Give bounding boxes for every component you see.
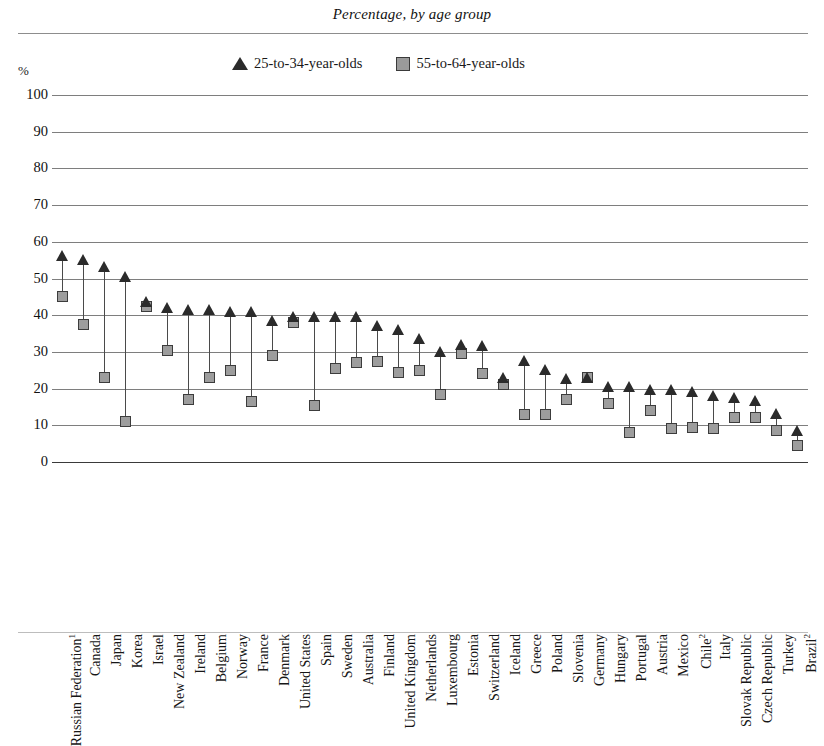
y-axis-unit-label: % (18, 63, 29, 79)
legend-item-1: 25-to-34-year-olds (232, 55, 362, 72)
data-point-triangle (791, 425, 803, 436)
connector-stem (251, 312, 252, 402)
data-point-triangle (770, 408, 782, 419)
data-point-triangle (539, 364, 551, 375)
data-point-square (267, 350, 278, 361)
x-axis-label-33: Slovak Republic (740, 634, 754, 727)
footnote-marker: 1 (67, 634, 77, 639)
data-point-triangle (665, 384, 677, 395)
x-axis-labels: Russian Federation1CanadaJapanKoreaIsrae… (52, 466, 808, 640)
connector-stem (188, 310, 189, 400)
data-point-square (687, 422, 698, 433)
connector-stem (356, 317, 357, 363)
x-axis-label-15: Australia (362, 634, 376, 685)
legend-label: 25-to-34-year-olds (254, 55, 362, 72)
data-point-square (771, 425, 782, 436)
data-point-triangle (350, 311, 362, 322)
data-point-square (372, 356, 383, 367)
x-axis-label-31: Chile2 (698, 634, 714, 669)
x-axis-label-32: Italy (719, 634, 733, 660)
data-point-triangle (56, 250, 68, 261)
y-axis-tick-80: 80 (8, 159, 48, 176)
data-point-triangle (560, 373, 572, 384)
x-axis-label-36: Brazil2 (803, 634, 819, 673)
data-point-square (729, 412, 740, 423)
data-point-triangle (224, 306, 236, 317)
data-point-square (435, 389, 446, 400)
connector-stem (629, 387, 630, 433)
data-point-square (792, 440, 803, 451)
data-point-square (666, 423, 677, 434)
y-axis-tick-30: 30 (8, 343, 48, 360)
connector-stem (209, 310, 210, 378)
data-point-triangle (455, 339, 467, 350)
data-point-triangle (602, 381, 614, 392)
triangle-marker-icon (232, 57, 248, 70)
data-point-triangle (140, 296, 152, 307)
data-point-square (183, 394, 194, 405)
data-point-triangle (518, 355, 530, 366)
data-point-square (393, 367, 404, 378)
x-axis-label-8: Belgium (215, 634, 229, 682)
data-point-square (225, 365, 236, 376)
x-axis-label-25: Slovenia (572, 634, 586, 683)
connector-stem (125, 277, 126, 422)
data-point-triangle (413, 333, 425, 344)
x-axis-label-11: Denmark (278, 634, 292, 686)
x-axis-label-34: Czech Republic (761, 634, 775, 723)
x-axis-label-10: France (257, 634, 271, 672)
data-point-triangle (476, 340, 488, 351)
data-point-square (162, 345, 173, 356)
data-point-square (414, 365, 425, 376)
y-axis-tick-40: 40 (8, 306, 48, 323)
data-point-square (561, 394, 572, 405)
x-axis-label-12: United States (299, 634, 313, 709)
gridline-0 (52, 462, 808, 463)
data-point-square (477, 368, 488, 379)
data-point-square (57, 291, 68, 302)
x-axis-label-6: New Zealand (173, 634, 187, 709)
data-point-triangle (308, 311, 320, 322)
legend-item-2: 55-to-64-year-olds (396, 55, 524, 72)
x-axis-label-2: Canada (89, 634, 103, 676)
x-axis-label-7: Ireland (194, 634, 208, 674)
footnote-marker: 2 (697, 634, 707, 639)
data-point-triangle (182, 304, 194, 315)
x-axis-label-27: Hungary (614, 634, 628, 683)
y-axis-tick-50: 50 (8, 270, 48, 287)
title-divider (18, 33, 808, 34)
gridline-60 (52, 242, 808, 243)
data-point-square (750, 412, 761, 423)
connector-stem (524, 361, 525, 414)
data-point-triangle (497, 372, 509, 383)
footnote-marker: 2 (802, 634, 812, 639)
x-axis-label-9: Norway (236, 634, 250, 679)
data-point-triangle (749, 395, 761, 406)
y-axis-tick-70: 70 (8, 196, 48, 213)
x-axis-label-21: Switzerland (488, 634, 502, 701)
data-point-triangle (707, 390, 719, 401)
connector-stem (545, 370, 546, 414)
figure-title: Percentage, by age group (0, 6, 824, 23)
data-point-square (78, 319, 89, 330)
x-axis-label-30: Mexico (677, 634, 691, 677)
connector-stem (104, 267, 105, 377)
gridline-40 (52, 315, 808, 316)
connector-stem (314, 317, 315, 405)
x-axis-label-14: Sweden (341, 634, 355, 678)
x-axis-label-22: Iceland (509, 634, 523, 675)
data-point-square (624, 427, 635, 438)
data-point-triangle (119, 271, 131, 282)
data-point-triangle (98, 261, 110, 272)
x-axis-label-35: Turkey (782, 634, 796, 674)
gridline-100 (52, 95, 808, 96)
y-axis-tick-10: 10 (8, 416, 48, 433)
data-point-square (204, 372, 215, 383)
x-axis-label-28: Portugal (635, 634, 649, 681)
bottom-divider (18, 632, 808, 633)
x-axis-label-16: Finland (383, 634, 397, 677)
gridline-70 (52, 205, 808, 206)
data-point-square (120, 416, 131, 427)
gridline-50 (52, 279, 808, 280)
gridline-90 (52, 132, 808, 133)
